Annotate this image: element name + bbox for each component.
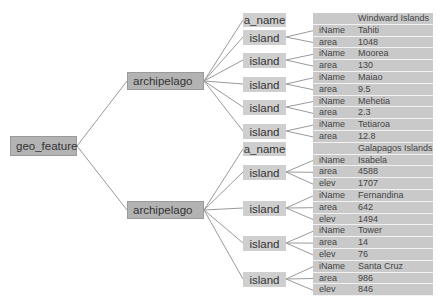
row-value: Galapagos Islands	[358, 143, 433, 154]
island-node[interactable]: island	[243, 165, 286, 180]
row-value: Windward Islands	[358, 13, 433, 24]
table-row: iNameMaiao	[313, 72, 433, 84]
row-key: iName	[313, 48, 358, 59]
row-key: iName	[313, 261, 358, 272]
table-row: iNameSanta Cruz	[313, 261, 433, 273]
table-row: iNameFernandina	[313, 190, 433, 202]
island-node[interactable]: island	[243, 272, 286, 287]
row-value: 986	[358, 273, 433, 284]
table-row: area1048	[313, 37, 433, 49]
row-value: Moorea	[358, 48, 433, 59]
archipelago-node-2[interactable]: archipelago	[127, 201, 204, 219]
table-row: iNameTetiaroa	[313, 119, 433, 131]
island-node[interactable]: island	[243, 30, 286, 45]
row-value: Tower	[358, 225, 433, 236]
table-row: area14	[313, 237, 433, 249]
island-node[interactable]: island	[243, 53, 286, 68]
table-row: iNameTahiti	[313, 25, 433, 37]
table-row: iNameIsabela	[313, 155, 433, 167]
table-row: area130	[313, 60, 433, 72]
row-key: iName	[313, 96, 358, 107]
table-row: elev76	[313, 249, 433, 261]
row-value: 14	[358, 237, 433, 248]
row-key: iName	[313, 190, 358, 201]
archipelago-name-row: Galapagos Islands	[313, 143, 433, 155]
row-value: 9.5	[358, 84, 433, 95]
row-value: Santa Cruz	[358, 261, 433, 272]
row-key: area	[313, 202, 358, 213]
row-key: iName	[313, 119, 358, 130]
row-key: area	[313, 107, 358, 118]
table-row: area642	[313, 202, 433, 214]
row-value: 130	[358, 60, 433, 71]
table-row: elev846	[313, 284, 433, 296]
island-node[interactable]: island	[243, 236, 286, 251]
row-key: iName	[313, 72, 358, 83]
row-key: elev	[313, 214, 358, 225]
island-node[interactable]: island	[243, 100, 286, 115]
row-value: Mehetia	[358, 96, 433, 107]
row-key: area	[313, 131, 358, 142]
archipelago-node-1[interactable]: archipelago	[127, 72, 204, 90]
table-row: area4588	[313, 166, 433, 178]
island-node[interactable]: island	[243, 77, 286, 92]
row-value: 12.8	[358, 131, 433, 142]
a-name-node-2[interactable]: a_name	[243, 142, 286, 156]
row-key: area	[313, 166, 358, 177]
row-value: 4588	[358, 166, 433, 177]
row-key: iName	[313, 25, 358, 36]
row-key: elev	[313, 249, 358, 260]
row-value: Tetiaroa	[358, 119, 433, 130]
table-row: iNameMoorea	[313, 48, 433, 60]
root-node-geo-feature[interactable]: geo_feature	[10, 136, 77, 156]
row-value: Maiao	[358, 72, 433, 83]
row-key: area	[313, 273, 358, 284]
row-key: elev	[313, 178, 358, 189]
table-row: elev1494	[313, 214, 433, 226]
row-key: area	[313, 237, 358, 248]
row-key: elev	[313, 284, 358, 295]
row-value: 2.3	[358, 107, 433, 118]
row-value: 846	[358, 284, 433, 295]
row-value: Isabela	[358, 155, 433, 166]
row-key: iName	[313, 225, 358, 236]
row-key: area	[313, 37, 358, 48]
table-row: area9.5	[313, 84, 433, 96]
row-value: 1048	[358, 37, 433, 48]
row-key: area	[313, 60, 358, 71]
row-value: 642	[358, 202, 433, 213]
row-value: Tahiti	[358, 25, 433, 36]
island-node[interactable]: island	[243, 201, 286, 216]
table-row: area12.8	[313, 131, 433, 143]
island-node[interactable]: island	[243, 124, 286, 139]
row-value: 76	[358, 249, 433, 260]
table-row: iNameMehetia	[313, 96, 433, 108]
row-key	[313, 13, 358, 24]
row-value: Fernandina	[358, 190, 433, 201]
row-value: 1707	[358, 178, 433, 189]
table-row: area2.3	[313, 107, 433, 119]
archipelago-name-row: Windward Islands	[313, 13, 433, 25]
table-row: area986	[313, 273, 433, 285]
attribute-table: Windward Islands iNameTahiti area1048 iN…	[313, 13, 433, 296]
row-key	[313, 143, 358, 154]
row-value: 1494	[358, 214, 433, 225]
table-row: iNameTower	[313, 225, 433, 237]
table-row: elev1707	[313, 178, 433, 190]
a-name-node-1[interactable]: a_name	[243, 13, 286, 27]
row-key: area	[313, 84, 358, 95]
row-key: iName	[313, 155, 358, 166]
